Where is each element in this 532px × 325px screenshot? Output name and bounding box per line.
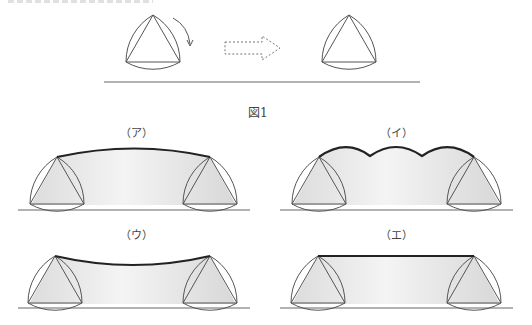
dashed-arrow-icon: [225, 36, 280, 60]
panel-label-b: （イ）: [380, 124, 413, 140]
diagram-canvas: [0, 0, 532, 325]
panel-a: [18, 149, 250, 212]
reuleaux-triangle-before: [126, 15, 180, 69]
panel-label-d: （エ）: [380, 226, 413, 242]
panel-d: [280, 256, 513, 310]
panel-label-a: （ア）: [120, 124, 153, 140]
panel-b: [280, 147, 513, 211]
reuleaux-triangle-after: [322, 15, 376, 69]
figure-1: [104, 15, 420, 82]
figure-caption: 図1: [248, 103, 268, 120]
panel-label-c: （ウ）: [120, 226, 153, 242]
panel-c: [18, 256, 250, 310]
